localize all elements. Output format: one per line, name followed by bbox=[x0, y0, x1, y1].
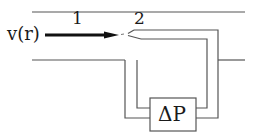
pressure-gauge-label: ΔP bbox=[158, 104, 186, 124]
tube-tip-mark bbox=[121, 34, 124, 35]
flow-arrow-icon bbox=[45, 32, 119, 39]
inner-tube bbox=[137, 60, 150, 108]
tube-tip-upper bbox=[128, 30, 134, 34]
point-1-label: 1 bbox=[72, 10, 83, 27]
velocity-label: v(r) bbox=[7, 25, 40, 43]
pitot-diagram bbox=[0, 0, 253, 135]
tube-tip-lower bbox=[128, 36, 141, 40]
point-2-label: 2 bbox=[134, 10, 145, 27]
